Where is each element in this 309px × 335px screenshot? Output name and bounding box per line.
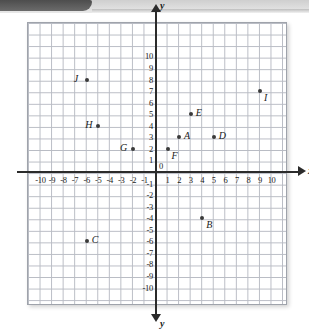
x-axis-label: x xyxy=(308,165,309,176)
y-tick--3: -3 xyxy=(133,202,153,212)
x-tick--1: -1 xyxy=(136,175,152,185)
y-tick-4: 4 xyxy=(133,121,153,131)
y-axis-line xyxy=(155,10,157,318)
y-tick--8: -8 xyxy=(133,259,153,269)
point-label-G: G xyxy=(120,142,127,153)
x-axis-line xyxy=(17,171,300,173)
grid-background xyxy=(27,22,287,305)
y-tick--6: -6 xyxy=(133,236,153,246)
point-label-H: H xyxy=(85,119,92,130)
point-E xyxy=(189,112,193,116)
y-tick--9: -9 xyxy=(133,271,153,281)
y-tick-8: 8 xyxy=(133,75,153,85)
point-label-J: J xyxy=(74,73,78,84)
banner-tab xyxy=(0,0,92,11)
y-tick--5: -5 xyxy=(133,225,153,235)
y-tick-1: 1 xyxy=(133,155,153,165)
point-H xyxy=(96,124,100,128)
y-tick--10: -10 xyxy=(133,283,153,293)
point-label-F: F xyxy=(172,150,178,161)
point-G xyxy=(131,147,135,151)
point-label-D: D xyxy=(219,130,226,141)
x-tick-10: 10 xyxy=(264,175,280,185)
banner-shadow xyxy=(92,9,309,13)
point-F xyxy=(166,147,170,151)
y-tick-3: 3 xyxy=(133,132,153,142)
point-label-B: B xyxy=(206,219,212,230)
y-axis-label-top: y xyxy=(160,0,164,11)
point-label-E: E xyxy=(196,107,202,118)
y-tick-9: 9 xyxy=(133,63,153,73)
y-axis-label-bottom: y xyxy=(160,318,164,329)
y-tick-7: 7 xyxy=(133,86,153,96)
point-label-C: C xyxy=(92,234,99,245)
coordinate-plane: x y y 0 10987654321-1-2-3-4-5-6-7-8-9-10… xyxy=(27,22,287,305)
point-label-I: I xyxy=(264,92,267,103)
x-axis-arrow-icon xyxy=(298,166,306,176)
y-tick-6: 6 xyxy=(133,98,153,108)
y-tick-10: 10 xyxy=(133,51,153,61)
y-tick--2: -2 xyxy=(133,190,153,200)
y-tick-2: 2 xyxy=(133,144,153,154)
point-label-A: A xyxy=(184,130,190,141)
y-tick--4: -4 xyxy=(133,213,153,223)
y-tick--7: -7 xyxy=(133,248,153,258)
origin-label: 0 xyxy=(159,161,163,171)
point-J xyxy=(85,78,89,82)
y-tick-5: 5 xyxy=(133,109,153,119)
